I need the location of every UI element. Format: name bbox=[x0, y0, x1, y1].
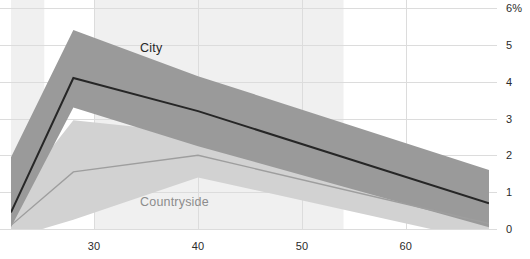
y-axis-tick-label-1: 1 bbox=[506, 187, 512, 198]
x-axis-tick-label-30: 30 bbox=[88, 241, 101, 252]
y-axis-tick-label-3: 3 bbox=[506, 114, 512, 125]
series-label-countryside: Countryside bbox=[140, 196, 209, 209]
y-axis-tick-label-5: 5 bbox=[506, 40, 512, 51]
x-axis-tick-label-50: 50 bbox=[296, 241, 309, 252]
y-axis-tick-label-4: 4 bbox=[506, 77, 512, 88]
x-axis-tick-label-40: 40 bbox=[192, 241, 205, 252]
series-label-city: City bbox=[140, 42, 162, 55]
y-axis-tick-label-2: 2 bbox=[506, 150, 512, 161]
chart-container: 0123456% 30405060 CityCountryside bbox=[0, 0, 530, 259]
x-axis-tick-label-60: 60 bbox=[400, 241, 413, 252]
y-axis-tick-label-0: 0 bbox=[506, 224, 512, 235]
y-axis-tick-label-6: 6% bbox=[506, 3, 522, 14]
chart-plot-area bbox=[0, 0, 530, 259]
